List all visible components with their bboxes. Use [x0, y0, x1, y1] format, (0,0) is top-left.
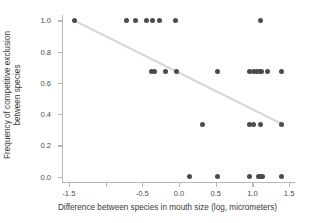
y-tick-label: 0.0 [40, 172, 51, 181]
x-axis-title: Difference between species in mouth size… [26, 203, 309, 212]
x-tick [252, 183, 253, 187]
data-point [258, 18, 263, 23]
data-point [173, 18, 178, 23]
data-point [150, 18, 155, 23]
x-tick [142, 183, 143, 187]
x-tick-label: -0.5 [136, 189, 149, 198]
x-tick [216, 183, 217, 187]
data-point [124, 18, 129, 23]
y-axis-title-line1: Frequency of competitive exclusion [3, 31, 12, 159]
y-tick: 0.2 [58, 145, 62, 146]
x-tick [179, 183, 180, 187]
data-point [72, 18, 77, 23]
y-axis-title: Frequency of competitive exclusion betwe… [0, 0, 26, 190]
y-tick: 0.0 [58, 177, 62, 178]
x-tick-label: -1.5 [62, 189, 75, 198]
y-tick: 0.6 [58, 83, 62, 84]
x-tick-label: 1.0 [247, 189, 258, 198]
y-tick-label: 1.0 [40, 16, 51, 25]
data-point [187, 174, 192, 179]
data-point [200, 122, 205, 127]
x-tick [289, 183, 290, 187]
y-tick-label: 0.6 [40, 78, 51, 87]
data-point [247, 174, 252, 179]
regression-line [63, 15, 295, 182]
plot-area: 0.00.20.40.60.81.0 -1.5-0.50.00.51.01.5 [63, 15, 295, 182]
data-point [258, 122, 263, 127]
y-tick-label: 0.4 [40, 110, 51, 119]
data-point [251, 122, 256, 127]
x-tick-label: 1.5 [284, 189, 295, 198]
x-tick [106, 183, 107, 187]
scatter-plot-figure: Frequency of competitive exclusion betwe… [0, 0, 309, 223]
y-tick-label: 0.8 [40, 47, 51, 56]
y-tick: 1.0 [58, 20, 62, 21]
x-tick [69, 183, 70, 187]
y-tick: 0.4 [58, 114, 62, 115]
x-tick-label: 0.5 [210, 189, 221, 198]
y-tick: 0.8 [58, 52, 62, 53]
x-tick-label: 0.0 [174, 189, 185, 198]
y-tick-label: 0.2 [40, 141, 51, 150]
y-axis-title-line2: between species [13, 31, 23, 159]
